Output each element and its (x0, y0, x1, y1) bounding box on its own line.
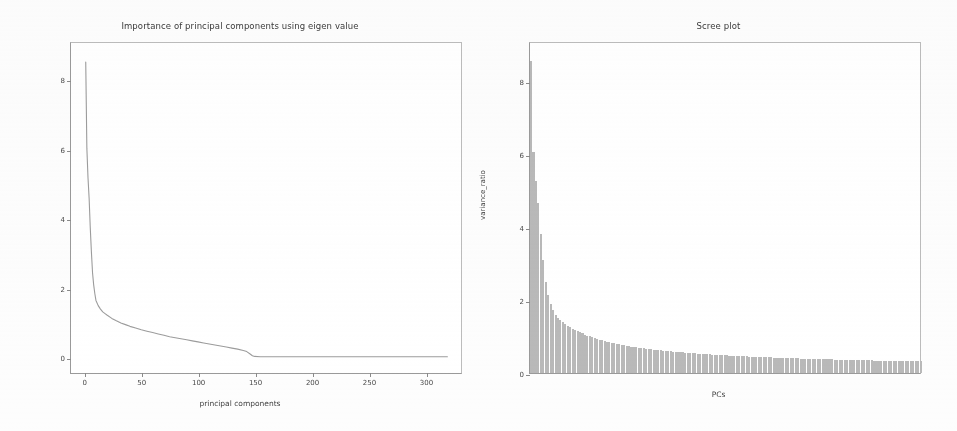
right-y-tick-label: 4 (520, 225, 524, 233)
left-x-tick-label: 150 (249, 379, 262, 387)
left-x-tick-label: 100 (192, 379, 205, 387)
left-x-tick-mark (256, 373, 257, 377)
left-x-tick-mark (427, 373, 428, 377)
left-x-tick-label: 50 (137, 379, 146, 387)
right-x-axis-label: PCs (480, 390, 957, 399)
left-y-tick-mark (67, 290, 71, 291)
left-y-tick-label: 8 (61, 77, 65, 85)
left-x-tick-mark (199, 373, 200, 377)
left-chart-title: Importance of principal components using… (0, 21, 480, 31)
left-x-tick-label: 0 (82, 379, 86, 387)
right-y-tick-label: 8 (520, 79, 524, 87)
left-plot-frame: 02468050100150200250300 (70, 42, 462, 374)
eigenvalue-curve (86, 62, 448, 357)
right-y-tick-mark (526, 302, 530, 303)
left-x-tick-mark (85, 373, 86, 377)
scree-bar (920, 361, 922, 373)
left-y-tick-mark (67, 151, 71, 152)
right-plot-frame: 02468 (529, 42, 921, 374)
right-y-tick-label: 0 (520, 371, 524, 379)
left-x-tick-label: 200 (306, 379, 319, 387)
left-y-tick-label: 6 (61, 147, 65, 155)
right-y-tick-label: 6 (520, 152, 524, 160)
left-x-tick-mark (313, 373, 314, 377)
left-x-tick-mark (142, 373, 143, 377)
left-y-tick-label: 4 (61, 216, 65, 224)
left-x-tick-mark (370, 373, 371, 377)
pca-figure: Importance of principal components using… (0, 0, 957, 431)
left-x-tick-label: 250 (363, 379, 376, 387)
right-y-tick-mark (526, 229, 530, 230)
right-chart-title: Scree plot (480, 21, 957, 31)
right-y-tick-mark (526, 156, 530, 157)
right-y-tick-mark (526, 375, 530, 376)
left-y-tick-mark (67, 359, 71, 360)
left-y-tick-label: 2 (61, 286, 65, 294)
left-plot-area (71, 43, 461, 373)
right-y-axis-label: variance_ratio (479, 170, 487, 220)
left-x-axis-label: principal components (0, 399, 480, 408)
right-y-tick-label: 2 (520, 298, 524, 306)
left-y-tick-mark (67, 220, 71, 221)
left-y-tick-label: 0 (61, 355, 65, 363)
left-chart-panel: Importance of principal components using… (0, 0, 480, 431)
left-y-tick-mark (67, 81, 71, 82)
right-plot-area (530, 43, 920, 373)
left-x-tick-label: 300 (420, 379, 433, 387)
right-y-tick-mark (526, 83, 530, 84)
